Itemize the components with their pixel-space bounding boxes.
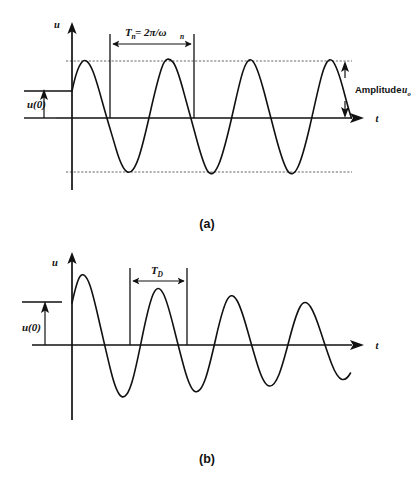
x-axis-arrow-b bbox=[350, 340, 364, 350]
panel-caption-b: (b) bbox=[199, 452, 215, 466]
damped-waveform bbox=[72, 275, 351, 397]
amplitude-label-a-text: Amplitude bbox=[355, 84, 401, 95]
x-axis-label-a: t bbox=[376, 113, 380, 124]
panel-caption-a: (a) bbox=[199, 217, 214, 231]
period-label-b: T D bbox=[151, 264, 164, 279]
vibration-figure: u t u(0) T n = 2π/ω n Amplitude u o (a) bbox=[0, 0, 414, 487]
figure-container: u t u(0) T n = 2π/ω n Amplitude u o (a) bbox=[0, 0, 414, 487]
period-label-a-omega-sub: n bbox=[180, 32, 184, 41]
amplitude-label-a: Amplitude u o bbox=[355, 84, 412, 97]
panel-b bbox=[22, 252, 364, 420]
panel-a bbox=[24, 22, 364, 190]
period-label-a: T n = 2π/ω n bbox=[125, 26, 184, 41]
y-axis-label-a: u bbox=[54, 19, 60, 30]
amplitude-label-a-symbol-sub: o bbox=[408, 90, 412, 97]
initial-value-label-b: u(0) bbox=[22, 321, 41, 334]
period-label-b-sub: D bbox=[157, 270, 164, 279]
period-label-a-equals: = 2π/ω bbox=[135, 26, 167, 38]
y-axis-label-b: u bbox=[52, 257, 58, 268]
x-axis-label-b: t bbox=[376, 340, 380, 351]
undamped-waveform bbox=[72, 59, 352, 174]
initial-value-label-a: u(0) bbox=[27, 98, 46, 111]
amplitude-label-a-symbol: u bbox=[402, 85, 407, 95]
